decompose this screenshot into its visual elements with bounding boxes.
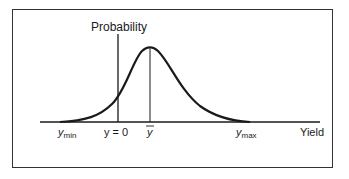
y-zero-label: y = 0 [104, 126, 128, 138]
mean-label: y [146, 126, 154, 138]
frame [13, 10, 333, 168]
x-axis-label: Yield [300, 126, 324, 138]
ymax-label: ymax [235, 126, 257, 140]
ymin-label: ymin [57, 126, 76, 140]
distribution-curve [60, 47, 250, 122]
y-axis-label: Probability [91, 20, 147, 34]
probability-diagram: Probability Yield ymin y = 0 y ymax [0, 0, 349, 179]
